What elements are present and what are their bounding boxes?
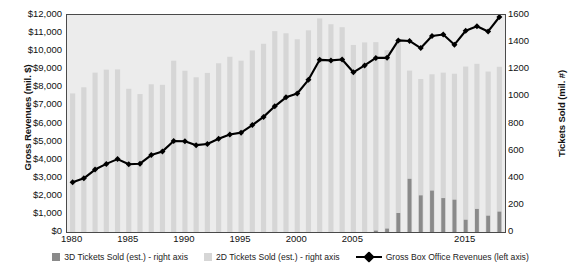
y-tick-label-left: $2,000 [33, 190, 62, 200]
y-axis-right-title: Tickets Sold (mil. #) [556, 34, 567, 194]
x-tick-label: 1990 [173, 233, 194, 244]
y-tick-label-left: $1,000 [33, 208, 62, 218]
y-axis-left-title: Gross Revenues (mil. $) [22, 38, 33, 198]
bar-2d-tickets [328, 24, 333, 232]
bar-2d-tickets [182, 71, 187, 232]
bar-2d-tickets [115, 69, 120, 232]
y-tick-label-left: $3,000 [33, 172, 62, 182]
bar-2d-tickets [149, 84, 154, 232]
bar-2d-tickets [70, 93, 75, 232]
bar-2d-tickets [261, 44, 266, 232]
chart-legend: 3D Tickets Sold (est.) - right axis2D Ti… [0, 252, 581, 262]
bar-3d-tickets [385, 229, 389, 232]
y-tick-label-right: 1000 [508, 90, 529, 100]
bar-2d-tickets [81, 87, 86, 232]
x-tick-label: 1980 [61, 233, 82, 244]
y-tick-label-right: 1400 [508, 36, 529, 46]
legend-swatch-icon [204, 253, 212, 261]
bar-3d-tickets [430, 191, 434, 232]
y-tick-label-left: $10,000 [28, 45, 62, 55]
bar-2d-tickets [194, 77, 199, 232]
y-tick-label-left: $8,000 [33, 81, 62, 91]
bar-3d-tickets [441, 198, 445, 232]
plot-svg [67, 15, 505, 232]
y-tick-label-left: $5,000 [33, 136, 62, 146]
x-tick-label: 1995 [229, 233, 250, 244]
bar-3d-tickets [374, 231, 378, 232]
bar-2d-tickets [104, 70, 109, 232]
legend-item-label: Gross Box Office Revenues (left axis) [386, 252, 529, 262]
bar-2d-tickets [497, 67, 502, 232]
bar-2d-tickets [160, 85, 165, 232]
bar-3d-tickets [486, 216, 490, 232]
y-tick-label-right: 400 [508, 172, 524, 182]
x-tick-label: 1985 [117, 233, 138, 244]
bar-3d-tickets [464, 220, 468, 232]
legend-swatch-icon [52, 253, 60, 261]
bar-2d-tickets [384, 50, 389, 232]
bar-3d-tickets [396, 213, 400, 232]
bar-2d-tickets [283, 33, 288, 232]
legend-line-icon [356, 253, 382, 261]
bar-3d-tickets [408, 179, 412, 232]
x-tick-label: 2005 [342, 233, 363, 244]
bar-2d-tickets [250, 50, 255, 232]
bar-2d-tickets [317, 18, 322, 232]
x-tick-label: 2000 [286, 233, 307, 244]
y-tick-label-left: $7,000 [33, 99, 62, 109]
bar-2d-tickets [227, 57, 232, 232]
bar-2d-tickets [373, 42, 378, 232]
y-tick-label-left: $9,000 [33, 63, 62, 73]
bar-2d-tickets [205, 73, 210, 232]
bar-3d-tickets [497, 212, 501, 232]
bar-2d-tickets [396, 40, 401, 232]
bar-3d-tickets [475, 209, 479, 232]
y-tick-label-right: 200 [508, 199, 524, 209]
y-tick-label-right: 600 [508, 145, 524, 155]
y-tick-label-left: $11,000 [28, 27, 62, 37]
y-tick-label-right: 1200 [508, 63, 529, 73]
bar-2d-tickets [171, 61, 176, 232]
bar-3d-tickets [419, 195, 423, 232]
x-tick-label: 2015 [454, 233, 475, 244]
legend-item-label: 2D Tickets Sold (est.) - right axis [216, 252, 340, 262]
bar-2d-tickets [126, 89, 131, 232]
bar-2d-tickets [486, 72, 491, 232]
bar-2d-tickets [272, 31, 277, 232]
bar-2d-tickets [92, 73, 97, 232]
chart-container: Gross Revenues (mil. $) Tickets Sold (mi… [0, 0, 581, 273]
legend-item[interactable]: Gross Box Office Revenues (left axis) [356, 252, 529, 262]
bar-2d-tickets [295, 39, 300, 232]
y-tick-label-left: $4,000 [33, 154, 62, 164]
bar-2d-tickets [474, 64, 479, 232]
bar-3d-tickets [453, 200, 457, 232]
y-tick-label-left: $6,000 [33, 118, 62, 128]
y-tick-label-right: 1600 [508, 9, 529, 19]
legend-item[interactable]: 2D Tickets Sold (est.) - right axis [204, 252, 340, 262]
y-tick-label-right: 0 [508, 226, 513, 236]
bar-2d-tickets [238, 61, 243, 232]
y-tick-label-right: 800 [508, 118, 524, 128]
y-tick-label-left: $12,000 [28, 9, 62, 19]
legend-item[interactable]: 3D Tickets Sold (est.) - right axis [52, 252, 188, 262]
bar-2d-tickets [306, 30, 311, 232]
bar-2d-tickets [463, 67, 468, 232]
bar-2d-tickets [216, 63, 221, 232]
bar-2d-tickets [362, 42, 367, 232]
plot-area [66, 14, 506, 233]
legend-item-label: 3D Tickets Sold (est.) - right axis [64, 252, 188, 262]
